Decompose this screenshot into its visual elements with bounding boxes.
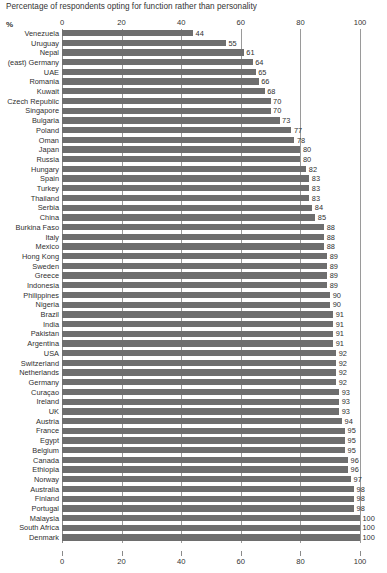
category-label: Russia — [36, 156, 59, 163]
bar-value-label: 93 — [342, 399, 350, 406]
bar — [62, 78, 259, 84]
bar-value-label: 92 — [339, 370, 347, 377]
chart-row: UK93 — [62, 407, 360, 417]
chart-row: Hungary82 — [62, 165, 360, 175]
bar-value-label: 92 — [339, 360, 347, 367]
chart-row: Poland77 — [62, 126, 360, 136]
chart-row: Burkina Faso88 — [62, 223, 360, 233]
chart-row: China85 — [62, 213, 360, 223]
category-label: Spain — [40, 176, 59, 183]
chart-row: Brazil91 — [62, 310, 360, 320]
bar — [62, 234, 324, 240]
category-label: South Africa — [19, 525, 59, 532]
bottom-axis-tick-100: 100 — [354, 557, 367, 566]
chart-row: Italy88 — [62, 233, 360, 243]
category-label: Indonesia — [27, 282, 59, 289]
bar-value-label: 91 — [336, 311, 344, 318]
bar-value-label: 44 — [196, 30, 204, 37]
bar-value-label: 94 — [345, 418, 353, 425]
bar-value-label: 92 — [339, 350, 347, 357]
bar — [62, 515, 360, 521]
bar-value-label: 91 — [336, 331, 344, 338]
category-label: Malaysia — [30, 515, 59, 522]
bar — [62, 166, 306, 172]
chart-row: Nigeria90 — [62, 301, 360, 311]
chart-row: Turkey83 — [62, 184, 360, 194]
chart-row: USA92 — [62, 349, 360, 359]
bar — [62, 282, 327, 288]
bar-value-label: 84 — [315, 205, 323, 212]
category-label: Argentina — [27, 340, 59, 347]
top-axis: 020406080100 — [62, 18, 360, 29]
bar-value-label: 100 — [363, 525, 375, 532]
bottom-axis-tick-40: 40 — [177, 557, 185, 566]
bar-value-label: 98 — [357, 486, 365, 493]
top-axis-tick-0: 0 — [60, 18, 64, 27]
category-label: Norway — [34, 476, 59, 483]
chart-row: Japan80 — [62, 145, 360, 155]
bar — [62, 185, 309, 191]
bottom-tickmark-20 — [122, 551, 123, 556]
bar-value-label: 92 — [339, 379, 347, 386]
bar-value-label: 95 — [348, 447, 356, 454]
bar — [62, 350, 336, 356]
bar — [62, 108, 271, 114]
category-label: Canada — [33, 457, 59, 464]
bar-value-label: 98 — [357, 505, 365, 512]
top-axis-tick-80: 80 — [296, 18, 304, 27]
bar-value-label: 83 — [312, 195, 320, 202]
category-label: Ethiopia — [32, 467, 59, 474]
bar-value-label: 73 — [282, 117, 290, 124]
bar — [62, 88, 265, 94]
bar-value-label: 96 — [351, 467, 359, 474]
bar-value-label: 100 — [363, 515, 375, 522]
bar — [62, 466, 348, 472]
top-axis-tick-60: 60 — [237, 18, 245, 27]
category-label: Nepal — [40, 50, 59, 57]
chart-row: Netherlands92 — [62, 368, 360, 378]
category-label: Greece — [35, 273, 59, 280]
chart-row: Russia80 — [62, 155, 360, 165]
category-label: Hong Kong — [22, 253, 59, 260]
bar — [62, 127, 291, 133]
bar-value-label: 98 — [357, 496, 365, 503]
category-label: Czech Republic — [7, 98, 59, 105]
bar-value-label: 70 — [273, 108, 281, 115]
category-label: Kuwait — [37, 88, 59, 95]
chart-row: Austria94 — [62, 417, 360, 427]
category-label: Belgium — [32, 447, 59, 454]
bar — [62, 224, 324, 230]
chart-row: Malaysia100 — [62, 514, 360, 524]
chart-row: Curaçao93 — [62, 388, 360, 398]
bar-value-label: 91 — [336, 340, 344, 347]
bottom-tickmark-0 — [62, 551, 63, 556]
chart-row: Switzerland92 — [62, 359, 360, 369]
bar-value-label: 93 — [342, 408, 350, 415]
bar-value-label: 70 — [273, 98, 281, 105]
category-label: Poland — [36, 127, 59, 134]
chart-row: UAE65 — [62, 68, 360, 78]
bar — [62, 379, 336, 385]
category-label: Switzerland — [21, 360, 59, 367]
bar — [62, 253, 327, 259]
bar — [62, 214, 315, 220]
bar — [62, 457, 348, 463]
bar — [62, 399, 339, 405]
bar-value-label: 88 — [327, 224, 335, 231]
chart-row: Romania66 — [62, 77, 360, 87]
chart-row: Egypt95 — [62, 436, 360, 446]
bar — [62, 311, 333, 317]
category-label: USA — [44, 350, 59, 357]
bar-value-label: 61 — [246, 50, 254, 57]
bar-value-label: 88 — [327, 234, 335, 241]
bar — [62, 243, 324, 249]
bar-value-label: 95 — [348, 428, 356, 435]
category-label: Curaçao — [31, 389, 59, 396]
bar — [62, 340, 333, 346]
category-label: Australia — [30, 486, 59, 493]
bar — [62, 195, 309, 201]
bar — [62, 321, 333, 327]
category-label: Germany — [29, 379, 59, 386]
category-label: Mexico — [36, 243, 59, 250]
bar — [62, 205, 312, 211]
